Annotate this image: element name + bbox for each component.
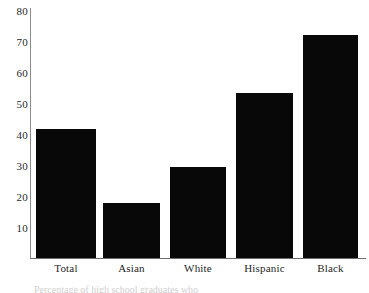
y-tick-80: 80	[0, 6, 28, 17]
y-tick-70: 70	[0, 37, 28, 48]
bar-chart-figure: 80 70 60 50 40 30 20 10 Total Asian Whit…	[0, 0, 369, 293]
bar-white	[170, 167, 226, 258]
y-axis-line	[30, 8, 31, 259]
x-axis-line	[30, 258, 366, 259]
y-tick-label: 40	[4, 130, 28, 141]
y-tick-label: 50	[4, 99, 28, 110]
y-tick-50: 50	[0, 99, 28, 110]
bar-asian	[103, 203, 160, 258]
y-tick-label: 30	[4, 161, 28, 172]
x-tick-label-asian: Asian	[103, 262, 160, 274]
x-tick-label-white: White	[170, 262, 226, 274]
y-tick-label: 10	[4, 223, 28, 234]
bar-hispanic	[236, 93, 293, 258]
x-tick-label-hispanic: Hispanic	[232, 262, 297, 274]
x-tick-label-total: Total	[36, 262, 96, 274]
y-tick-20: 20	[0, 192, 28, 203]
y-tick-label: 60	[4, 68, 28, 79]
x-tick-label-black: Black	[303, 262, 358, 274]
y-tick-label: 20	[4, 192, 28, 203]
clipped-caption: Percentage of high school graduates who	[34, 285, 334, 293]
y-tick-60: 60	[0, 68, 28, 79]
y-tick-label: 80	[4, 6, 28, 17]
bar-total	[36, 129, 96, 258]
y-tick-40: 40	[0, 130, 28, 141]
y-tick-label: 70	[4, 37, 28, 48]
y-tick-30: 30	[0, 161, 28, 172]
bar-black	[303, 35, 358, 258]
y-tick-10: 10	[0, 223, 28, 234]
